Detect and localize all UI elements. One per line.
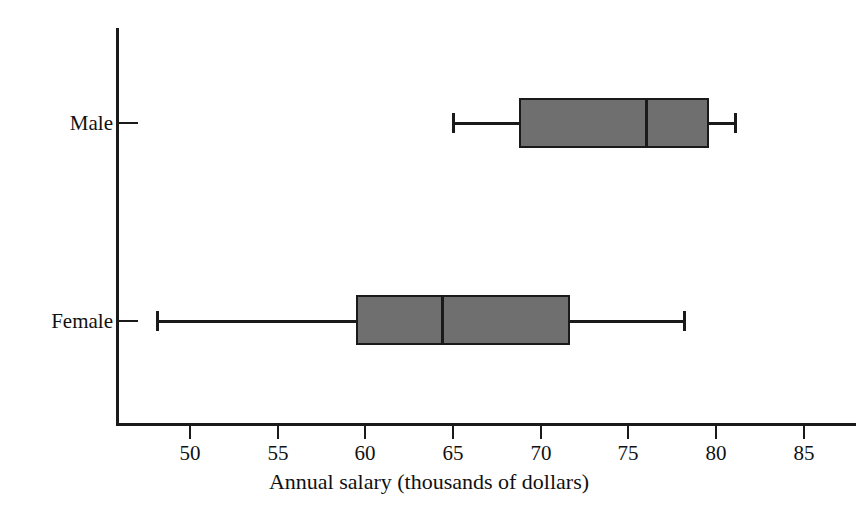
female-box xyxy=(356,295,570,345)
female-lower-whisker-line xyxy=(156,320,358,323)
x-tick-mark-55 xyxy=(277,426,279,439)
male-lower-whisker-line xyxy=(452,122,520,125)
box-plot-chart: 50 55 60 65 70 75 80 85 Male Female xyxy=(0,0,858,523)
female-upper-whisker-line xyxy=(568,320,686,323)
female-upper-whisker-cap xyxy=(683,311,686,331)
y-tick-label-male: Male xyxy=(70,110,113,136)
male-upper-whisker-cap xyxy=(734,113,737,133)
x-tick-label-60: 60 xyxy=(335,440,395,466)
male-lower-whisker-cap xyxy=(452,113,455,133)
y-tick-mark-male xyxy=(119,122,138,124)
y-axis-line xyxy=(116,28,119,426)
female-lower-whisker-cap xyxy=(156,311,159,331)
male-box xyxy=(519,98,709,148)
x-tick-mark-60 xyxy=(364,426,366,439)
x-tick-mark-70 xyxy=(540,426,542,439)
x-tick-label-50: 50 xyxy=(160,440,220,466)
x-tick-mark-80 xyxy=(715,426,717,439)
x-tick-label-85: 85 xyxy=(774,440,834,466)
y-tick-label-female: Female xyxy=(51,308,113,334)
x-tick-mark-85 xyxy=(803,426,805,439)
female-median-line xyxy=(441,295,444,345)
x-tick-label-80: 80 xyxy=(686,440,746,466)
x-tick-mark-75 xyxy=(627,426,629,439)
x-tick-mark-50 xyxy=(189,426,191,439)
male-median-line xyxy=(645,98,648,148)
x-axis-line xyxy=(116,423,856,426)
x-tick-label-75: 75 xyxy=(598,440,658,466)
x-tick-label-55: 55 xyxy=(248,440,308,466)
x-tick-mark-65 xyxy=(452,426,454,439)
male-upper-whisker-line xyxy=(708,122,737,125)
x-axis-title: Annual salary (thousands of dollars) xyxy=(0,468,858,496)
x-tick-label-65: 65 xyxy=(423,440,483,466)
x-tick-label-70: 70 xyxy=(511,440,571,466)
y-tick-mark-female xyxy=(119,320,138,322)
